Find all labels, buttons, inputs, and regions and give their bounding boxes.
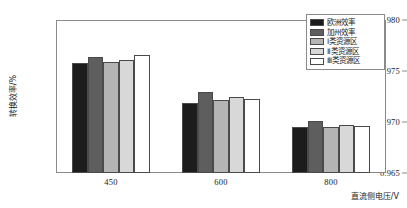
bar (308, 121, 324, 173)
y-tick-mark (402, 122, 407, 123)
x-axis-label: 直流侧电压/V (351, 190, 399, 201)
bar (323, 127, 339, 173)
bar (354, 126, 370, 173)
bar (339, 125, 355, 173)
legend-swatch (310, 38, 324, 45)
legend-swatch (310, 48, 324, 55)
chart-figure: 转换效率/% 0.9800.9750.9700.965 450600800 直流… (0, 0, 407, 208)
legend-swatch (310, 29, 324, 36)
bar (103, 62, 119, 173)
legend-swatch (310, 58, 324, 65)
legend-item: 欧洲效率 (310, 18, 380, 28)
legend-item: Ⅱ类资源区 (310, 47, 380, 57)
y-tick-mark (402, 20, 407, 21)
chart-legend: 欧洲效率加州效率Ⅰ类资源区Ⅱ类资源区Ⅲ类资源区 (306, 14, 385, 70)
legend-label: Ⅱ类资源区 (327, 48, 359, 56)
bar (292, 127, 308, 173)
bar (213, 100, 229, 173)
legend-item: Ⅲ类资源区 (310, 56, 380, 66)
bar (134, 55, 150, 173)
bar (229, 97, 245, 174)
legend-item: 加州效率 (310, 28, 380, 38)
legend-item: Ⅰ类资源区 (310, 37, 380, 47)
y-tick-mark (402, 173, 407, 174)
legend-label: Ⅲ类资源区 (327, 57, 360, 65)
bar (88, 57, 104, 173)
y-tick-mark (402, 71, 407, 72)
legend-label: 欧洲效率 (327, 19, 355, 27)
legend-label: 加州效率 (327, 29, 355, 37)
bar (72, 63, 88, 173)
bar (182, 103, 198, 173)
y-axis-label: 转换效率/% (7, 75, 18, 117)
legend-label: Ⅰ类资源区 (327, 38, 357, 46)
legend-swatch (310, 19, 324, 26)
bar (244, 99, 260, 173)
x-tick-label: 800 (324, 177, 338, 187)
x-tick-label: 450 (104, 177, 118, 187)
bar (119, 60, 135, 173)
x-tick-label: 600 (214, 177, 228, 187)
bar (198, 92, 214, 173)
